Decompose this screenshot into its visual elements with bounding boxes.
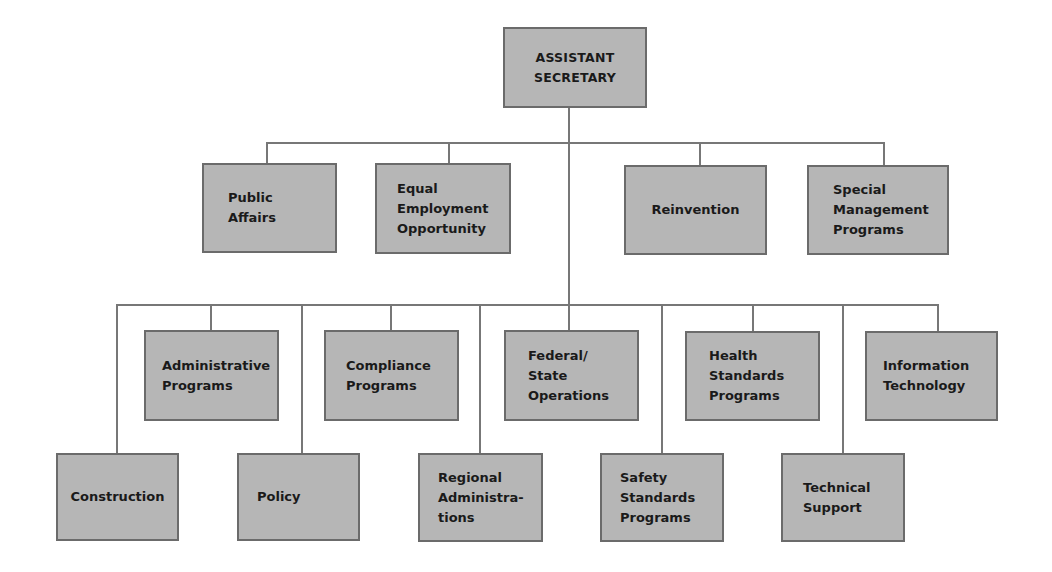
connector-regional bbox=[479, 304, 481, 454]
box-label: Health Standards Programs bbox=[709, 346, 784, 406]
box-label: Safety Standards Programs bbox=[620, 468, 695, 528]
connector-construction bbox=[116, 304, 118, 454]
box-public-affairs: Public Affairs bbox=[202, 163, 337, 253]
box-label: Construction bbox=[71, 487, 165, 507]
box-label: Policy bbox=[257, 487, 301, 507]
box-safety-standards-programs: Safety Standards Programs bbox=[600, 453, 724, 542]
box-equal-employment-opportunity: Equal Employment Opportunity bbox=[375, 163, 511, 254]
box-construction: Construction bbox=[56, 453, 179, 541]
connector-safety bbox=[661, 304, 663, 454]
connector-special-mgmt bbox=[883, 142, 885, 166]
connector-federal-state bbox=[568, 304, 570, 331]
connector-policy bbox=[301, 304, 303, 454]
box-label: Administrative Programs bbox=[162, 356, 270, 396]
box-assistant-secretary: ASSISTANT SECRETARY bbox=[503, 27, 647, 108]
box-policy: Policy bbox=[237, 453, 360, 541]
box-label: Technical Support bbox=[803, 478, 871, 518]
box-administrative-programs: Administrative Programs bbox=[144, 330, 279, 421]
box-label: Special Management Programs bbox=[833, 180, 929, 240]
box-label: Information Technology bbox=[883, 356, 969, 396]
box-label: Reinvention bbox=[652, 200, 740, 220]
box-compliance-programs: Compliance Programs bbox=[324, 330, 459, 421]
box-regional-administrations: Regional Administra- tions bbox=[418, 453, 543, 542]
box-label: ASSISTANT SECRETARY bbox=[534, 48, 616, 88]
connector-compliance bbox=[390, 304, 392, 331]
box-information-technology: Information Technology bbox=[865, 331, 998, 421]
box-label: Compliance Programs bbox=[346, 356, 431, 396]
connector-public-affairs bbox=[266, 142, 268, 164]
connector-staff-bar bbox=[266, 142, 885, 144]
connector-eeo bbox=[448, 142, 450, 164]
box-technical-support: Technical Support bbox=[781, 453, 905, 542]
connector-reinvention bbox=[699, 142, 701, 166]
box-federal-state-operations: Federal/ State Operations bbox=[504, 330, 639, 421]
connector-technical bbox=[842, 304, 844, 454]
box-label: Equal Employment Opportunity bbox=[397, 179, 488, 239]
connector-directorate-bar bbox=[116, 304, 939, 306]
box-label: Regional Administra- tions bbox=[438, 468, 524, 528]
connector-trunk bbox=[568, 107, 570, 306]
box-reinvention: Reinvention bbox=[624, 165, 767, 255]
connector-info-tech bbox=[937, 304, 939, 332]
connector-administrative bbox=[210, 304, 212, 331]
org-chart: ASSISTANT SECRETARY Public Affairs Equal… bbox=[0, 0, 1052, 572]
box-label: Federal/ State Operations bbox=[528, 346, 609, 406]
box-special-management-programs: Special Management Programs bbox=[807, 165, 949, 255]
box-label: Public Affairs bbox=[228, 188, 276, 228]
connector-health bbox=[752, 304, 754, 332]
box-health-standards-programs: Health Standards Programs bbox=[685, 331, 820, 421]
